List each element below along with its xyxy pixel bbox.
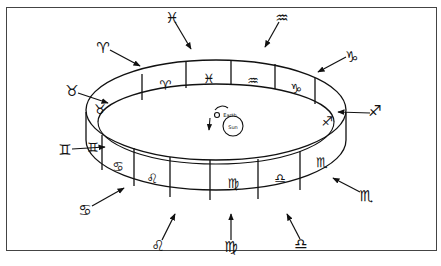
sun-earth-group [209,106,243,136]
band-sign-virgo: ♍ [227,177,239,190]
orbit-arrow [209,118,210,130]
earth-circle [215,113,220,118]
pointer-arrows [72,22,370,240]
ring-bottom-edge [86,112,346,190]
orbit-arc [215,106,228,110]
band-sign-aries: ♈ [159,79,171,92]
band-sign-libra: ♎ [274,172,286,185]
band-sign-pisces: ♓ [203,72,215,85]
outer-sign-pisces: ♓ [165,11,178,26]
band-sign-gemini: ♊ [87,141,99,154]
band-sign-sagittarius: ♐ [321,115,333,128]
band-sign-scorpio: ♏ [316,156,328,169]
earth-label: Earth [223,112,236,118]
sun-label: Sun [228,124,238,130]
band-sign-taurus: ♉ [94,103,106,116]
outer-sign-virgo: ♍ [224,240,237,255]
outer-sign-capricorn: ♑ [345,50,358,65]
outer-sign-sagittarius: ♐ [368,104,381,119]
band-sign-capricorn: ♑ [290,82,302,95]
outer-sign-taurus: ♉ [65,84,78,99]
band-sign-leo: ♌ [146,172,158,185]
band-sign-aquarius: ♒ [247,74,259,87]
outer-sign-aries: ♈ [96,41,109,56]
zodiac-ring [86,60,346,200]
band-sign-cancer: ♋ [112,160,124,173]
outer-sign-cancer: ♋ [78,203,91,218]
zodiac-diagram [0,0,441,266]
outer-sign-scorpio: ♏ [359,189,372,204]
outer-sign-aquarius: ♒ [275,11,288,26]
outer-sign-libra: ♎ [294,237,307,252]
outer-sign-leo: ♌ [151,239,164,254]
ring-top-outer [86,60,346,160]
outer-sign-gemini: ♊ [58,143,71,158]
